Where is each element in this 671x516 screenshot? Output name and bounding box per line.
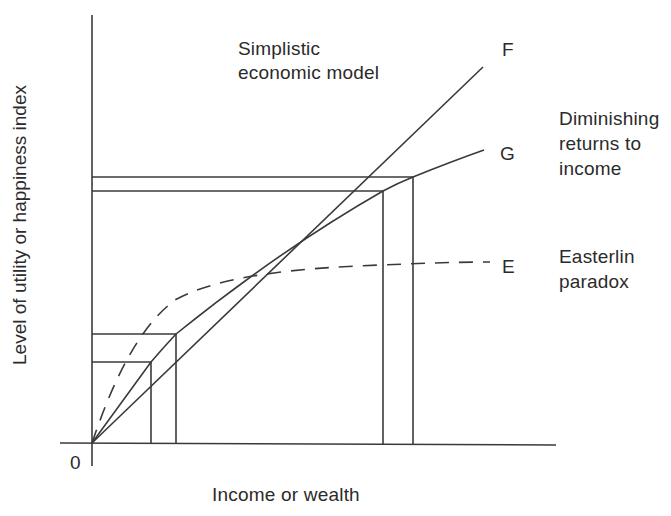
simplistic-label-line1: Simplistic [238, 37, 320, 60]
curve-g-label: G [500, 142, 515, 165]
simplistic-label-line2: economic model [238, 61, 379, 84]
easterlin-label-line1: Easterlin [559, 245, 635, 268]
diminishing-label-line1: Diminishing [559, 107, 659, 130]
diminishing-label-line3: income [559, 157, 621, 180]
origin-label: 0 [70, 451, 81, 474]
easterlin-label-line2: paradox [559, 270, 629, 293]
curve-e-label: E [502, 255, 515, 278]
diminishing-label-line2: returns to [559, 132, 641, 155]
x-axis-label: Income or wealth [212, 483, 360, 506]
curve-f-label: F [502, 38, 514, 61]
y-axis-label: Level of utility or happiness index [9, 85, 31, 365]
x-axis [60, 443, 556, 445]
